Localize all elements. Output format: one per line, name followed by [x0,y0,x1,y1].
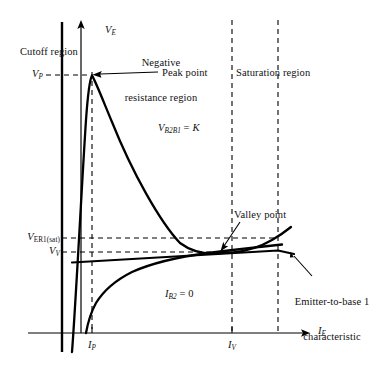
valley-point-leader [221,222,241,251]
y-tick-label-vp: VP [0,68,43,80]
region-label-saturation: Saturation region [236,67,310,79]
annotation-valley-point: Valley point [234,209,286,221]
annotation-vb2b1: VB2B1 = K [158,122,199,134]
annotation-emitter-to-base1-line2: characteristic [286,331,378,343]
x-tick-label-ip: IP [78,339,106,351]
valley-point-leader-line [224,222,240,246]
ujt-characteristic-figure: VE IE Cutoff region Negative resistance … [0,0,380,381]
y-tick-label-ver1sat: VER1(sat) [0,231,60,243]
y-tick-label-vv: VV [0,245,60,257]
annotation-peak-point: Peak point [162,67,208,79]
annotation-ib2: IB2 = 0 [165,288,194,300]
annotation-emitter-to-base1: Emitter-to-base 1 characteristic [286,272,378,366]
x-tick-label-iv: IV [218,339,246,351]
region-label-cutoff: Cutoff region [20,46,78,58]
region-label-negative-resistance-line2: resistance region [113,92,209,104]
region-label-negative-resistance: Negative resistance region [113,33,209,127]
x-axis-tick-marks [92,327,232,333]
annotation-emitter-to-base1-line1: Emitter-to-base 1 [286,296,378,308]
